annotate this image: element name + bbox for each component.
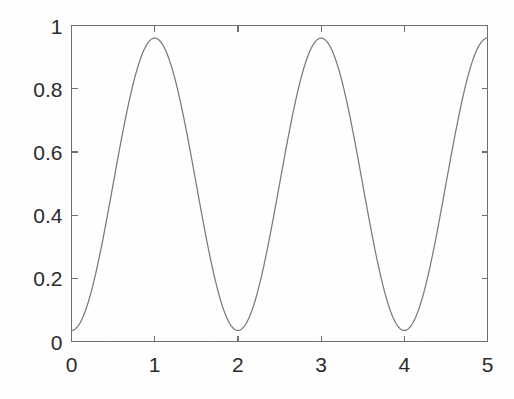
plot-figure: 00.20.40.60.81 012345 bbox=[0, 0, 514, 399]
plot-canvas bbox=[0, 0, 514, 399]
x-tick-label: 0 bbox=[66, 354, 78, 375]
x-tick-label: 3 bbox=[315, 354, 327, 375]
y-tick-label: 0.4 bbox=[33, 205, 62, 226]
y-tick-label: 0.2 bbox=[33, 268, 62, 289]
y-tick-label: 1 bbox=[51, 15, 63, 36]
x-tick-label: 2 bbox=[232, 354, 244, 375]
data-series-group bbox=[72, 38, 488, 330]
waveform-line bbox=[72, 38, 488, 330]
x-tick-label: 5 bbox=[482, 354, 494, 375]
y-tick-label: 0 bbox=[51, 331, 63, 352]
y-tick-label: 0.8 bbox=[33, 78, 62, 99]
x-tick-label: 4 bbox=[398, 354, 410, 375]
y-tick-label: 0.6 bbox=[33, 141, 62, 162]
x-tick-label: 1 bbox=[149, 354, 161, 375]
